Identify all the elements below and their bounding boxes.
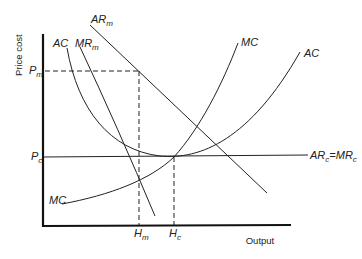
hm-label: Hm — [134, 227, 149, 242]
mr-m-label: MRm — [75, 37, 99, 52]
ac-left-label: AC — [52, 37, 68, 49]
mr-m-curve — [80, 47, 155, 216]
ar-m-label: ARm — [90, 13, 113, 28]
ac-curve — [67, 48, 300, 156]
arc-mrc-label: ARc=MRc — [309, 149, 357, 164]
x-axis-title: Output — [246, 235, 275, 246]
mc-bottom-label: MC — [49, 194, 66, 206]
x-axis — [43, 225, 291, 226]
economics-diagram: Price cost Output ARm AC MRm MC AC MC Pm… — [0, 0, 362, 259]
mc-top-label: MC — [241, 36, 258, 48]
hc-label: Hc — [169, 227, 181, 242]
ar-m-curve — [90, 25, 267, 193]
pc-label: Pc — [31, 150, 42, 165]
mc-curve — [62, 43, 238, 204]
ac-right-label: AC — [303, 47, 319, 59]
pm-label: Pm — [29, 64, 43, 79]
y-axis-title: Price cost — [13, 34, 24, 76]
